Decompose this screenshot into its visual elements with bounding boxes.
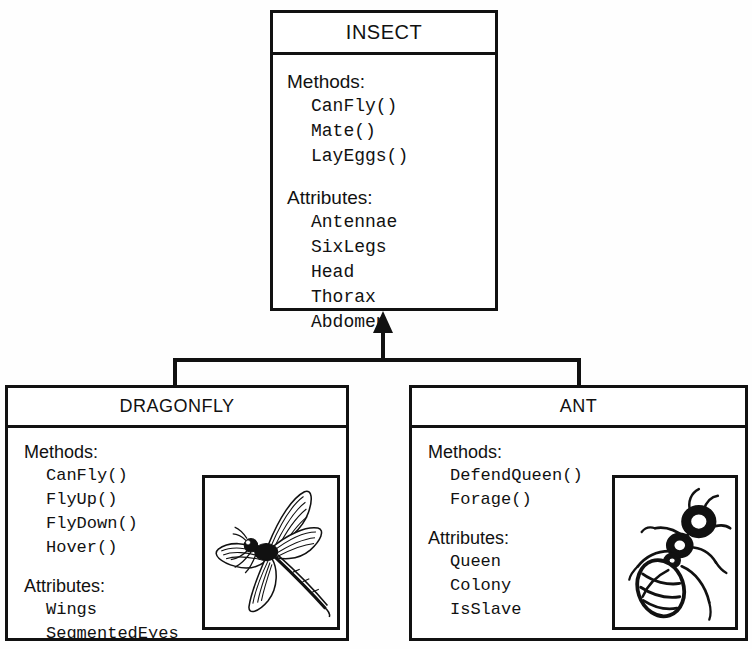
class-title-ant: ANT bbox=[412, 388, 745, 428]
uml-class-diagram: INSECT Methods: CanFly() Mate() LayEggs(… bbox=[0, 0, 752, 649]
dragonfly-icon bbox=[205, 478, 337, 627]
ant-illustration-panel bbox=[612, 475, 738, 630]
attributes-label-insect: Attributes: bbox=[287, 185, 495, 210]
ant-icon bbox=[615, 478, 735, 627]
method-item: CanFly() bbox=[287, 94, 495, 119]
inheritance-stem bbox=[381, 330, 385, 361]
class-body-insect: Methods: CanFly() Mate() LayEggs() Attri… bbox=[273, 55, 495, 311]
methods-label-ant: Methods: bbox=[428, 440, 745, 464]
method-item: Mate() bbox=[287, 119, 495, 144]
class-box-dragonfly[interactable]: DRAGONFLY Methods: CanFly() FlyUp() FlyD… bbox=[5, 385, 349, 641]
inheritance-drop-ant bbox=[577, 358, 581, 387]
attribute-item: Head bbox=[287, 260, 495, 285]
inheritance-drop-dragonfly bbox=[173, 358, 177, 387]
class-box-insect[interactable]: INSECT Methods: CanFly() Mate() LayEggs(… bbox=[270, 10, 498, 311]
attribute-item: Thorax bbox=[287, 285, 495, 310]
attribute-item: SixLegs bbox=[287, 235, 495, 260]
methods-label-insect: Methods: bbox=[287, 69, 495, 94]
class-title-insect: INSECT bbox=[273, 13, 495, 55]
inheritance-branch-bar bbox=[175, 358, 581, 362]
dragonfly-illustration-panel bbox=[202, 475, 340, 630]
class-body-ant: Methods: DefendQueen() Forage() Attribut… bbox=[412, 428, 745, 641]
class-body-dragonfly: Methods: CanFly() FlyUp() FlyDown() Hove… bbox=[8, 428, 346, 641]
class-title-dragonfly: DRAGONFLY bbox=[8, 388, 346, 428]
method-item: LayEggs() bbox=[287, 144, 495, 169]
section-spacer bbox=[287, 169, 495, 185]
methods-label-dragonfly: Methods: bbox=[24, 440, 346, 464]
attribute-item: Antennae bbox=[287, 210, 495, 235]
class-box-ant[interactable]: ANT Methods: DefendQueen() Forage() Attr… bbox=[409, 385, 748, 641]
